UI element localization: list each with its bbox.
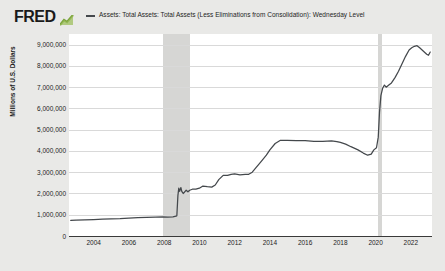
x-tick-label: 2010 <box>179 239 219 246</box>
y-axis: Millions of U.S. Dollars 01,000,0002,000… <box>0 0 66 271</box>
y-tick-label: 9,000,000 <box>4 41 66 48</box>
x-axis-baseline <box>69 236 432 237</box>
x-tick-label: 2012 <box>215 239 255 246</box>
fred-chart-figure: FRED Assets: Total Assets: Total Assets … <box>0 0 445 271</box>
chart-legend: Assets: Total Assets: Total Assets (Less… <box>86 10 376 19</box>
series-line <box>71 46 430 221</box>
x-tick-label: 2022 <box>391 239 431 246</box>
x-tick-label: 2008 <box>144 239 184 246</box>
y-tick-label: 6,000,000 <box>4 105 66 112</box>
x-tick-label: 2004 <box>74 239 114 246</box>
y-tick-label: 4,000,000 <box>4 147 66 154</box>
x-tick-label: 2006 <box>109 239 149 246</box>
y-tick-label: 1,000,000 <box>4 211 66 218</box>
x-tick-label: 2014 <box>250 239 290 246</box>
chart-header: FRED Assets: Total Assets: Total Assets … <box>0 0 445 34</box>
series-line-layer <box>69 34 432 236</box>
x-tick-label: 2018 <box>320 239 360 246</box>
plot-area <box>69 34 432 236</box>
y-tick-label: 3,000,000 <box>4 169 66 176</box>
y-tick-label: 7,000,000 <box>4 84 66 91</box>
x-tick-label: 2020 <box>356 239 396 246</box>
legend-item: Assets: Total Assets: Total Assets (Less… <box>86 10 376 19</box>
x-tick-label: 2016 <box>285 239 325 246</box>
legend-line-swatch <box>86 15 95 17</box>
y-tick-label: 5,000,000 <box>4 126 66 133</box>
legend-item-label: Assets: Total Assets: Total Assets (Less… <box>99 10 365 19</box>
y-tick-label: 2,000,000 <box>4 190 66 197</box>
x-axis: 2004200620082010201220142016201820202022 <box>0 239 445 253</box>
y-tick-label: 8,000,000 <box>4 62 66 69</box>
